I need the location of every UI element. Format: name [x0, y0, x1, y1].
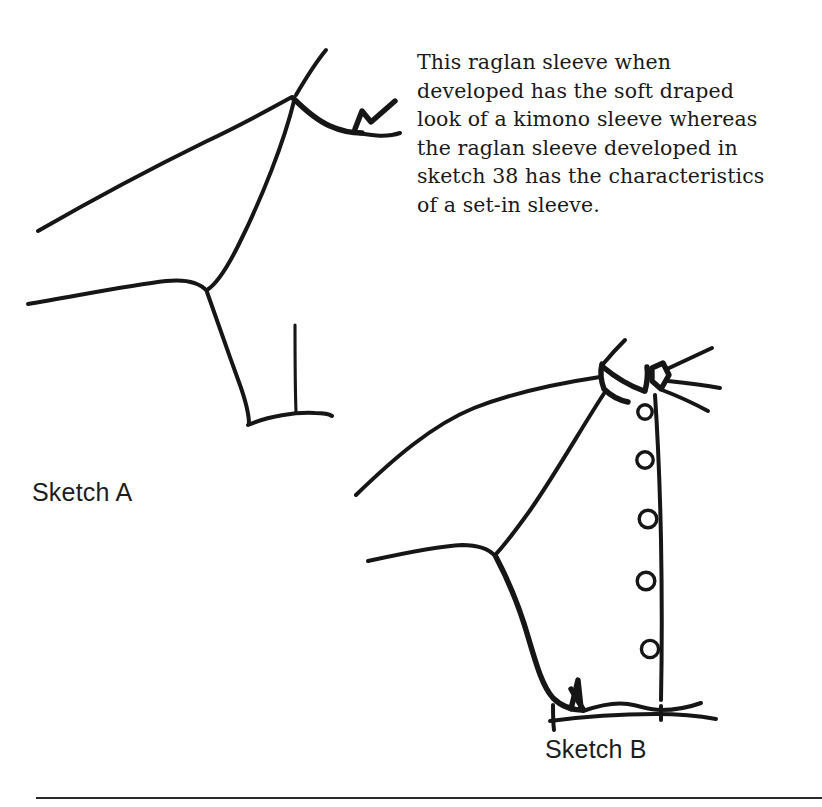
sketch-a-label: Sketch A [32, 478, 132, 507]
sketch-b-strokes [356, 340, 720, 730]
sketch-a-strokes [28, 50, 400, 425]
button [637, 572, 655, 590]
button [639, 510, 657, 528]
button [641, 640, 658, 657]
button [638, 405, 652, 419]
button [637, 452, 653, 468]
footer-divider [36, 797, 822, 799]
sketch-b-label: Sketch B [545, 735, 647, 764]
scanned-page: This raglan sleeve when developed has th… [0, 0, 822, 807]
caption-paragraph: This raglan sleeve when developed has th… [417, 48, 809, 219]
